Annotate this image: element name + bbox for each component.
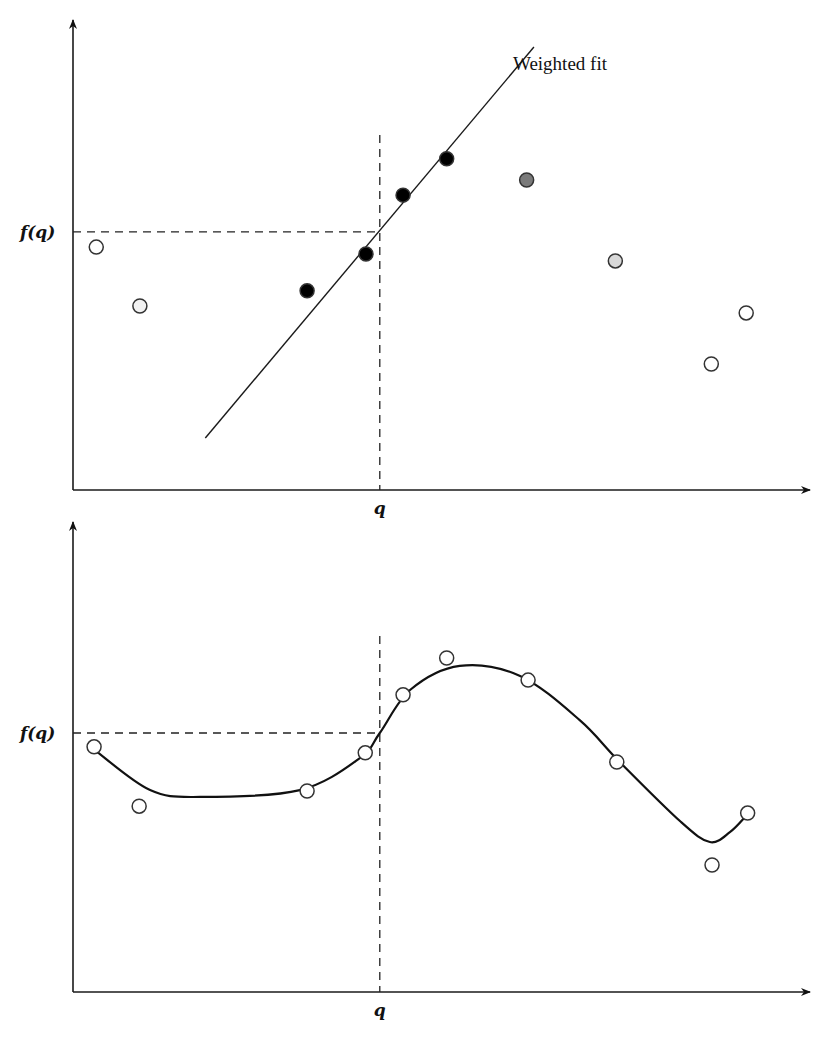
y-query-label: f(q) (19, 723, 55, 743)
data-point (132, 799, 146, 813)
data-point (739, 306, 753, 320)
data-point (87, 740, 101, 754)
data-point (520, 173, 534, 187)
data-point (358, 746, 372, 760)
data-point (89, 240, 103, 254)
data-point (704, 357, 718, 371)
data-point (440, 152, 454, 166)
chart-figure: Weighted fit f(q) q f(q) q (0, 0, 833, 1038)
data-point (608, 254, 622, 268)
data-points (89, 152, 753, 371)
weighted-fit-label: Weighted fit (513, 53, 608, 74)
data-point (359, 247, 373, 261)
data-point (741, 806, 755, 820)
data-point (705, 858, 719, 872)
data-point (300, 784, 314, 798)
weighted-fit-line (205, 47, 534, 438)
bottom-panel: f(q) q (19, 522, 810, 1020)
data-point (396, 188, 410, 202)
x-query-label: q (374, 498, 386, 518)
data-point (133, 299, 147, 313)
x-query-label: q (374, 1000, 386, 1020)
top-panel: Weighted fit f(q) q (19, 20, 810, 518)
data-points (87, 651, 755, 872)
data-point (610, 755, 624, 769)
data-point (521, 673, 535, 687)
y-query-label: f(q) (19, 222, 55, 242)
data-point (440, 651, 454, 665)
data-point (396, 688, 410, 702)
data-point (300, 284, 314, 298)
local-fit-curve (95, 665, 746, 842)
